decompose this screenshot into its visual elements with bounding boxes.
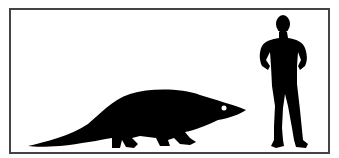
human-silhouette	[260, 15, 308, 148]
animal-silhouette	[28, 90, 246, 148]
animal-eye	[222, 106, 227, 111]
size-comparison-diagram	[0, 0, 339, 158]
